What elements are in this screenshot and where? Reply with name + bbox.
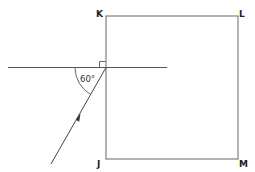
vertex-label-k: K [96,9,104,19]
vertex-label-l: L [239,9,245,19]
right-angle-marker [100,62,106,68]
square-klmj [106,16,238,159]
vertex-label-m: M [239,159,248,169]
angle-label: 60° [80,74,95,84]
arrow-icon [76,114,81,122]
diagram-canvas: 60° K L M J [0,0,255,172]
vertex-label-j: J [96,159,100,169]
